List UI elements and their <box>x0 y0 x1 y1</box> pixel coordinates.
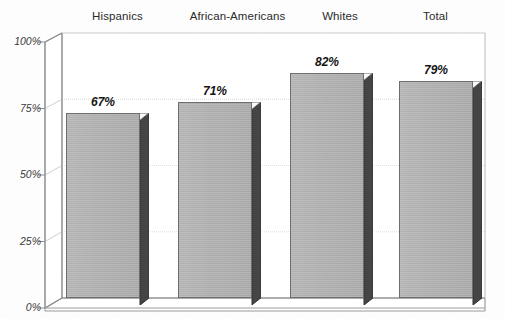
bar-total <box>399 81 473 298</box>
y-tick-label-75: 75% <box>20 102 41 114</box>
bar-whites <box>290 73 364 298</box>
y-tick-label-25: 25% <box>20 235 41 247</box>
data-label-whites: 82% <box>290 55 364 69</box>
category-label-total: Total <box>383 10 488 22</box>
bar-total-front <box>399 81 473 298</box>
y-tick-label-50: 50% <box>20 168 41 180</box>
category-label-hispanics: Hispanics <box>60 10 175 22</box>
data-label-hispanics: 67% <box>66 95 140 109</box>
bar-african-americans-front <box>178 102 252 298</box>
y-axis: 100% 75% 50% 25% 0% <box>0 0 41 319</box>
bar-whites-front <box>290 73 364 298</box>
data-label-african-americans: 71% <box>178 84 252 98</box>
data-label-total: 79% <box>399 63 473 77</box>
y-tick-label-0: 0% <box>26 301 41 313</box>
y-tick-label-100: 100% <box>14 35 41 47</box>
bar-african-americans <box>178 102 252 298</box>
bar-hispanics-front <box>66 113 140 298</box>
bar-hispanics <box>66 113 140 298</box>
bar-chart: 100% 75% 50% 25% 0% Hispanics African-Am… <box>0 0 505 319</box>
category-label-whites: Whites <box>285 10 395 22</box>
